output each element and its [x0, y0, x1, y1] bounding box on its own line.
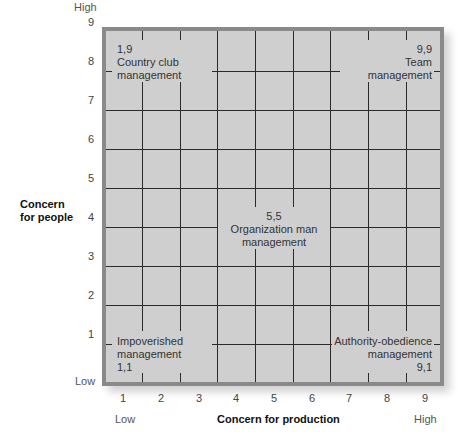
label-country-club: 1,9 Country club management	[117, 43, 181, 82]
grid-hline	[106, 305, 440, 306]
y-axis-title-line1: Concern	[20, 198, 73, 211]
grid-hline	[106, 188, 440, 189]
label-line2: management	[117, 348, 183, 361]
label-line1: Organization man	[218, 223, 330, 236]
label-line1: Authority-obedience	[334, 335, 432, 348]
y-tick: 1	[88, 328, 94, 340]
grid-area: 1,9 Country club management 9,9 Team man…	[106, 31, 440, 382]
label-line2: management	[117, 69, 181, 82]
x-tick: 3	[196, 392, 202, 404]
y-low-label: Low	[75, 375, 95, 387]
x-tick: 9	[422, 392, 428, 404]
grid-vline	[142, 31, 143, 382]
label-organization-man: 5,5 Organization man management	[218, 210, 330, 249]
grid-vline	[406, 31, 407, 382]
coords: 1,1	[117, 361, 183, 374]
label-line1: Impoverished	[117, 335, 183, 348]
grid-hline	[106, 266, 440, 267]
label-line1: Country club	[117, 56, 181, 69]
label-team: 9,9 Team management	[368, 43, 432, 82]
label-line2: management	[218, 236, 330, 249]
x-tick: 2	[158, 392, 164, 404]
grid-vline	[368, 31, 369, 382]
y-axis-title-line2: for people	[20, 211, 73, 224]
grid-hline	[106, 149, 440, 150]
y-tick: 7	[88, 94, 94, 106]
y-tick: 2	[88, 289, 94, 301]
grid-vline	[180, 31, 181, 382]
y-tick: 8	[88, 55, 94, 67]
y-tick: 9	[88, 16, 94, 28]
coords: 1,9	[117, 43, 181, 56]
y-tick: 6	[88, 133, 94, 145]
coords: 9,9	[368, 43, 432, 56]
x-tick: 1	[120, 392, 126, 404]
label-line2: management	[334, 348, 432, 361]
label-line2: management	[368, 69, 432, 82]
grid-hline	[106, 110, 440, 111]
label-authority-obedience: Authority-obedience management 9,1	[334, 335, 432, 374]
y-axis-title: Concern for people	[20, 198, 73, 224]
y-tick: 3	[88, 250, 94, 262]
x-high-label: High	[414, 413, 437, 425]
x-tick: 7	[346, 392, 352, 404]
y-tick: 5	[88, 172, 94, 184]
x-tick: 6	[309, 392, 315, 404]
x-tick: 5	[271, 392, 277, 404]
y-tick: 4	[88, 211, 94, 223]
coords: 9,1	[334, 361, 432, 374]
x-low-label: Low	[115, 413, 135, 425]
coords: 5,5	[218, 210, 330, 223]
label-impoverished: Impoverished management 1,1	[117, 335, 183, 374]
grid-vline	[330, 31, 331, 382]
x-tick: 8	[384, 392, 390, 404]
x-tick: 4	[233, 392, 239, 404]
y-high-label: High	[74, 1, 97, 13]
label-line1: Team	[368, 56, 432, 69]
x-axis-title: Concern for production	[217, 413, 340, 426]
